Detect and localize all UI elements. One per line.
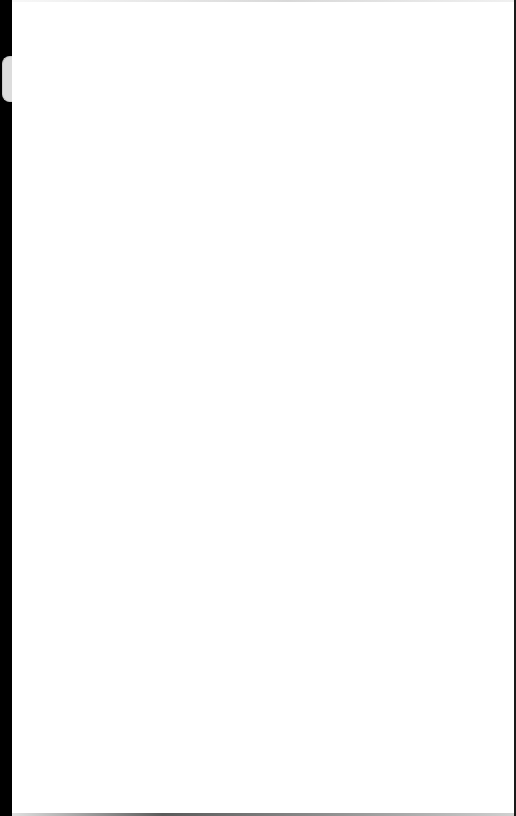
blank-content-area [12, 2, 514, 813]
content-text [12, 2, 13, 3]
left-bezel [0, 0, 12, 816]
device-screen [0, 0, 516, 816]
